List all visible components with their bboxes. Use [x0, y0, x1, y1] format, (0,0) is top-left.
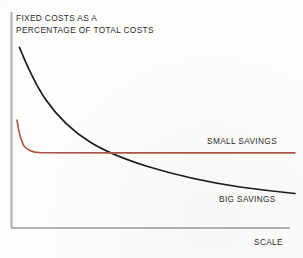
chart-title-line-1: FIXED COSTS AS A [16, 13, 154, 25]
x-axis-label: SCALE [254, 237, 283, 249]
chart-title: FIXED COSTS AS A PERCENTAGE OF TOTAL COS… [16, 13, 154, 36]
small-savings-label: SMALL SAVINGS [207, 136, 277, 148]
big-savings-curve [20, 48, 296, 194]
plot-area [0, 0, 303, 258]
big-savings-label: BIG SAVINGS [219, 194, 276, 206]
chart-title-line-2: PERCENTAGE OF TOTAL COSTS [16, 25, 154, 37]
chart-figure: FIXED COSTS AS A PERCENTAGE OF TOTAL COS… [0, 0, 303, 258]
